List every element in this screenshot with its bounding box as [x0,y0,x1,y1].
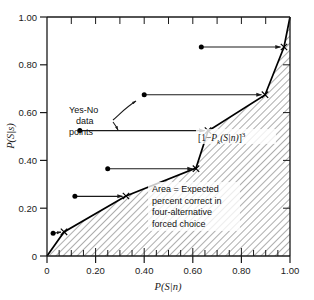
y-tick-label-0: 0 [32,251,37,262]
x-tick-label-060: 0.60 [184,265,203,276]
x-tick-label-020: 0.20 [86,265,105,276]
y-axis-title: P(S|s) [5,123,17,150]
y-tick-label-060: 0.60 [19,107,38,118]
area-annotation: Area = Expected percent correct in four-… [148,182,240,231]
x-tick-label-0: 0 [44,265,49,276]
data-point [72,194,77,199]
area-line-2: percent correct in [152,196,222,206]
data-point [105,166,110,171]
yes-no-line-1: Yes-No [69,105,98,115]
x-tick-label-100: 1.00 [281,265,300,276]
formula-paren: (S|n) [220,133,238,144]
data-point [199,45,204,50]
yes-no-line-3: points [69,127,94,137]
chart-figure: 1.00 0.80 0.60 0.40 0.20 0 0 0.20 0.40 0… [0,0,314,300]
x-axis-major-ticks [47,256,290,263]
chart-svg: 1.00 0.80 0.60 0.40 0.20 0 0 0.20 0.40 0… [0,0,314,300]
formula-annotation: [1−Pk(S|n)]3 [196,129,276,146]
formula-exponent: 3 [242,131,246,139]
data-point [142,92,147,97]
y-tick-label-1: 1.00 [19,12,38,23]
area-line-1: Area = Expected [152,184,219,194]
y-tick-label-080: 0.80 [19,59,38,70]
x-tick-label-040: 0.40 [135,265,154,276]
yes-no-line-2: data [76,116,94,126]
x-axis-title: P(S|n) [154,281,182,293]
area-line-3: four-alternative [152,207,212,217]
y-tick-label-020: 0.20 [19,203,38,214]
area-line-4: forced choice [152,219,206,229]
y-tick-label-040: 0.40 [19,155,38,166]
data-point [51,231,56,236]
x-tick-label-080: 0.80 [232,265,251,276]
y-axis-ticks [40,17,47,256]
